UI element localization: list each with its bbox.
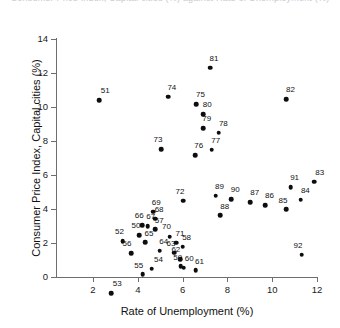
- data-point-label: 92: [294, 242, 303, 250]
- data-point: [146, 224, 151, 229]
- data-point-label: 77: [211, 137, 220, 145]
- y-tick-label: 2: [43, 238, 48, 248]
- data-point: [193, 268, 198, 273]
- data-point-label: 54: [154, 256, 163, 264]
- data-point: [143, 240, 148, 245]
- data-point: [157, 248, 162, 253]
- y-tick-mark: [51, 277, 57, 278]
- data-point: [149, 267, 154, 272]
- data-point: [153, 227, 158, 232]
- data-point-label: 87: [250, 189, 259, 197]
- data-point: [209, 148, 214, 153]
- x-tick-label: 4: [135, 285, 140, 295]
- data-point-label: 66: [135, 212, 144, 220]
- data-point: [312, 180, 317, 185]
- data-point: [248, 200, 253, 205]
- data-point-label: 75: [196, 91, 205, 99]
- data-point-label: 80: [203, 101, 212, 109]
- data-point-label: 78: [219, 120, 228, 128]
- data-point-label: 85: [278, 197, 287, 205]
- x-tick-mark: [93, 277, 94, 282]
- data-point: [181, 265, 186, 270]
- data-point: [299, 197, 304, 202]
- data-point: [153, 217, 158, 222]
- data-point: [167, 234, 172, 239]
- data-point-label: 74: [167, 84, 176, 92]
- data-point: [194, 102, 199, 107]
- data-point-label: 83: [315, 169, 324, 177]
- data-point-label: 86: [265, 192, 274, 200]
- y-axis-label: Consumer Price Index, Capital cities (%): [30, 38, 42, 278]
- data-point: [97, 98, 102, 103]
- x-tick-mark: [272, 277, 273, 282]
- data-point: [174, 240, 179, 245]
- data-point: [140, 223, 145, 228]
- data-point: [208, 66, 213, 71]
- data-point-label: 69: [152, 199, 161, 207]
- data-point-label: 72: [175, 188, 184, 196]
- data-point: [284, 97, 289, 102]
- y-tick-label: 4: [43, 204, 48, 214]
- data-point-label: 68: [155, 206, 164, 214]
- data-point-label: 55: [134, 262, 143, 270]
- data-point-label: 65: [145, 230, 154, 238]
- data-point-label: 89: [215, 183, 224, 191]
- data-point: [178, 257, 183, 262]
- data-point: [159, 147, 164, 152]
- y-tick-label: 8: [43, 136, 48, 146]
- x-tick-label: 6: [180, 285, 185, 295]
- data-point-label: 71: [175, 230, 184, 238]
- x-axis-line: [56, 277, 318, 278]
- data-point-label: 90: [231, 186, 240, 194]
- chart-title: Consumer Price Index, Capital cities (%)…: [0, 0, 340, 3]
- data-point-label: 84: [301, 187, 310, 195]
- data-point: [217, 131, 222, 136]
- x-axis-label: Rate of Unemployment (%): [57, 305, 317, 317]
- data-point: [201, 126, 206, 131]
- x-tick-label: 10: [267, 285, 278, 295]
- scatter-plot: Consumer Price Index, Capital cities (%)…: [0, 0, 340, 328]
- x-tick-mark: [227, 277, 228, 282]
- data-point-label: 60: [185, 255, 194, 263]
- x-tick-mark: [183, 277, 184, 282]
- x-tick-mark: [138, 277, 139, 282]
- data-point-label: 82: [286, 86, 295, 94]
- data-point-label: 56: [123, 240, 132, 248]
- data-point: [137, 233, 142, 238]
- data-point: [218, 213, 223, 218]
- data-point-label: 64: [159, 238, 168, 246]
- data-point-label: 70: [162, 223, 171, 231]
- y-tick-label: 0: [43, 272, 48, 282]
- data-point: [263, 203, 268, 208]
- data-point: [172, 251, 177, 256]
- x-tick-label: 12: [312, 285, 323, 295]
- data-point: [284, 207, 289, 212]
- data-point: [213, 193, 218, 198]
- data-point: [129, 251, 134, 256]
- data-point: [180, 244, 185, 249]
- data-point-label: 53: [113, 280, 122, 288]
- data-point-label: 61: [195, 258, 204, 266]
- x-tick-mark: [317, 277, 318, 282]
- data-point: [151, 209, 156, 214]
- data-point: [109, 291, 114, 296]
- x-tick-label: 2: [90, 285, 95, 295]
- data-point-label: 51: [101, 87, 110, 95]
- y-tick-label: 6: [43, 170, 48, 180]
- data-point: [181, 199, 186, 204]
- data-point-label: 73: [154, 136, 163, 144]
- data-point-label: 52: [115, 228, 124, 236]
- data-point: [288, 185, 293, 190]
- data-point: [166, 95, 171, 100]
- data-point: [229, 197, 234, 202]
- data-point: [299, 253, 304, 258]
- data-point: [140, 272, 145, 277]
- data-point-label: 81: [210, 55, 219, 63]
- data-point: [201, 112, 206, 117]
- x-tick-label: 8: [225, 285, 230, 295]
- data-point-label: 88: [220, 203, 229, 211]
- data-point: [193, 153, 198, 158]
- data-point-label: 91: [290, 174, 299, 182]
- data-point-label: 76: [194, 142, 203, 150]
